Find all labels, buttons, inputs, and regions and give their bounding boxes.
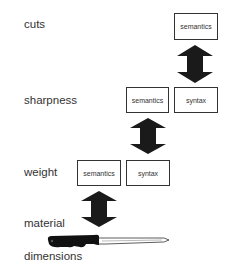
label-weight: weight <box>24 166 57 178</box>
label-sharpness: sharpness <box>24 94 77 106</box>
sharpness-syntax-box: syntax <box>174 87 218 113</box>
sharpness-semantics-box: semantics <box>126 87 169 113</box>
label-dimensions: dimensions <box>24 250 82 262</box>
cuts-semantics-box: semantics <box>174 13 218 40</box>
double-arrow-icon <box>130 118 166 154</box>
label-material: material <box>24 217 65 229</box>
weight-syntax-box: syntax <box>126 160 170 186</box>
knife-icon <box>46 232 170 250</box>
weight-semantics-box: semantics <box>77 160 121 186</box>
double-arrow-icon <box>177 45 213 83</box>
label-cuts: cuts <box>24 18 45 30</box>
double-arrow-icon <box>81 191 117 227</box>
